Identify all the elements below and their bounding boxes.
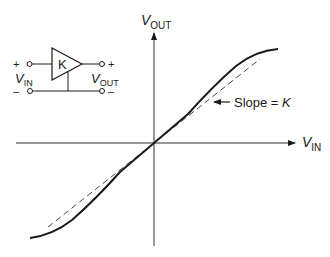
- output-plus-sign: +: [108, 58, 114, 70]
- amplifier-schematic: + K + – – VIN VOUT: [13, 48, 119, 97]
- transfer-characteristic-diagram: + K + – – VIN VOUT VIN VOUT: [0, 0, 330, 257]
- slope-label: Slope = K: [234, 95, 292, 110]
- x-axis-label: VIN: [302, 134, 321, 153]
- y-axis-label: VOUT: [141, 12, 171, 31]
- input-minus-terminal: [28, 89, 33, 94]
- amplifier-triangle-icon: [52, 48, 82, 80]
- input-plus-sign: +: [13, 58, 19, 70]
- input-plus-terminal: [27, 62, 32, 67]
- output-plus-terminal: [100, 62, 105, 67]
- gain-label: K: [58, 57, 67, 72]
- amp-vin-label: VIN: [15, 71, 33, 88]
- input-minus-sign: –: [13, 85, 20, 97]
- output-minus-terminal: [100, 89, 105, 94]
- slope-annotation: Slope = K: [214, 95, 292, 110]
- amp-vout-label: VOUT: [91, 71, 119, 88]
- axes: VIN VOUT: [16, 12, 321, 246]
